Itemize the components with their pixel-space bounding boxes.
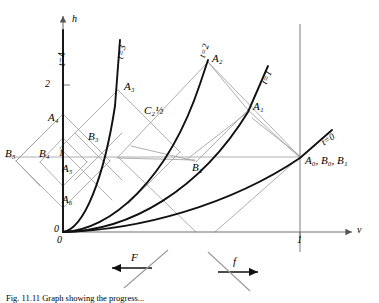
origin-label-v: 0 [57,235,62,245]
point-label-a2: A₂ [212,53,223,64]
point-label-b4: B₄ [39,148,50,159]
h-tick-label-2: 2 [45,79,50,89]
lattice-a1-down-left [196,110,248,162]
point-label-b2: B₂ [192,162,203,173]
curve-t2 [63,60,208,232]
curve-t0 [63,130,332,232]
lattice-unit-marker: 1 [59,150,63,158]
point-label-a1: A₁ [253,101,264,112]
curves-group [63,30,332,232]
flow-label-F: F [131,252,138,263]
v-axis-label: v [357,225,361,235]
lattice-b4-d [40,162,63,186]
flow-label-f: f [233,256,236,267]
point-label-a4: A₄ [48,112,59,123]
curve-label-t4: t=4 [58,52,68,66]
h-axis-label: h [72,14,77,24]
point-label-a3: A₃ [124,81,135,92]
point-label-b3: B₃ [88,131,99,142]
lattice-ray-corner [252,118,300,156]
point-label-c2-half: C₂½ [144,105,163,116]
point-label-a0-b0-b1: A₀, B₀, B₁ [305,155,348,166]
figure-caption: Fig. 11.11 Graph showing the progress... [6,293,144,303]
lattice-right-down [215,157,300,232]
lattice-b5-b [16,161,40,186]
point-label-b5: B₅ [5,148,16,159]
point-label-a6: A₆ [62,194,73,205]
origin-label-h: 0 [54,224,59,234]
point-label-a5: A₅ [62,163,73,174]
v-tick-label-1: 1 [297,235,302,245]
curve-t1 [63,66,268,232]
lattice-left-down [118,157,196,232]
lattice-a3-right [118,90,180,152]
lattice-a1-to-corner [248,110,300,158]
lattice-inner-a2-1 [208,62,248,110]
lattice-a2-long-down [208,62,262,232]
